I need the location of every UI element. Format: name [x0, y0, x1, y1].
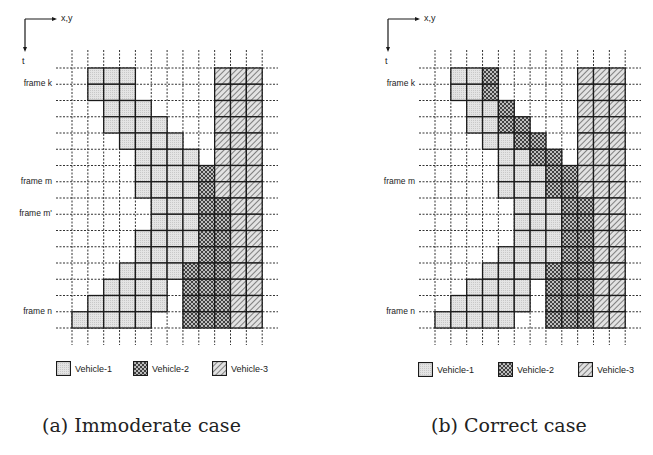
- frame-label: frame k: [355, 78, 415, 88]
- legend-label: Vehicle-2: [152, 364, 189, 374]
- legend-label: Vehicle-2: [517, 365, 554, 375]
- frame-label: frame m': [0, 208, 52, 218]
- axis-label-xy: x,y: [424, 13, 436, 23]
- legend-label: Vehicle-3: [597, 365, 634, 375]
- legend-vehicle-3: Vehicle-3: [578, 362, 634, 377]
- caption-a: (a) Immoderate case: [42, 414, 241, 436]
- axis-label-t: t: [385, 56, 388, 66]
- legend-vehicle-3: Vehicle-3: [212, 361, 268, 376]
- vehicle-3-swatch-icon: [212, 361, 227, 376]
- vehicle-2-swatch-icon: [498, 362, 513, 377]
- vehicle-1-swatch-icon: [418, 362, 433, 377]
- grid-canvas-b: [363, 0, 653, 455]
- vehicle-3-swatch-icon: [578, 362, 593, 377]
- legend-vehicle-2: Vehicle-2: [133, 361, 189, 376]
- legend-label: Vehicle-1: [75, 364, 112, 374]
- legend-vehicle-1: Vehicle-1: [418, 362, 474, 377]
- legend-label: Vehicle-3: [231, 364, 268, 374]
- legend-vehicle-2: Vehicle-2: [498, 362, 554, 377]
- figure-a: x,y t frame kframe mframe m'frame n Vehi…: [0, 0, 326, 455]
- axis-label-t: t: [22, 56, 25, 66]
- caption-b: (b) Correct case: [431, 414, 587, 436]
- axis-label-xy: x,y: [61, 13, 73, 23]
- vehicle-2-swatch-icon: [133, 361, 148, 376]
- grid-canvas-a: [0, 0, 326, 455]
- frame-label: frame m: [355, 176, 415, 186]
- frame-label: frame n: [0, 306, 52, 316]
- figure-b: x,y t frame kframe mframe n Vehicle-1 Ve…: [363, 0, 653, 455]
- frame-label: frame k: [0, 78, 52, 88]
- legend-label: Vehicle-1: [437, 365, 474, 375]
- vehicle-1-swatch-icon: [56, 361, 71, 376]
- legend-vehicle-1: Vehicle-1: [56, 361, 112, 376]
- frame-label: frame m: [0, 176, 52, 186]
- frame-label: frame n: [355, 306, 415, 316]
